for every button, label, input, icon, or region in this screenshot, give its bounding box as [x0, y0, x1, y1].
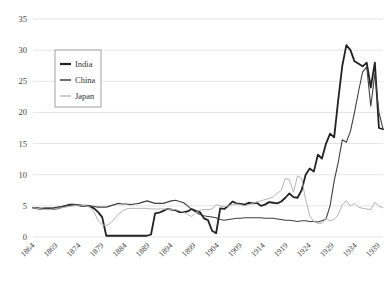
x-tick-label: 1924: [295, 241, 313, 259]
x-tick-label: 1939: [364, 241, 382, 259]
y-tick-label: 15: [19, 139, 28, 149]
y-tick-label: 10: [19, 170, 28, 180]
x-tick-label: 1864: [19, 241, 37, 259]
y-tick-label: 30: [19, 45, 28, 55]
x-tick-label: 1884: [111, 241, 129, 259]
chart-legend: IndiaChinaJapan: [55, 50, 101, 107]
x-tick-label: 1889: [134, 241, 152, 259]
x-tick-label: 1914: [249, 241, 267, 259]
line-chart: 05101520253035 1864186918741879188418891…: [0, 0, 390, 282]
x-tick-label: 1934: [341, 241, 359, 259]
x-tick-label: 1909: [226, 241, 244, 259]
y-tick-label: 20: [19, 107, 28, 117]
x-tick-label: 1919: [272, 241, 290, 259]
x-tick-label: 1904: [203, 241, 221, 259]
x-tick-label: 1899: [180, 241, 198, 259]
y-tick-label: 5: [23, 201, 27, 211]
legend-label-japan[interactable]: Japan: [75, 91, 95, 101]
x-axis-tick-labels: 1864186918741879188418891894189919041909…: [19, 241, 382, 259]
y-tick-label: 25: [19, 76, 28, 86]
x-tick-label: 1869: [42, 241, 60, 259]
chart-canvas: 05101520253035 1864186918741879188418891…: [0, 0, 390, 282]
y-tick-label: 35: [19, 14, 28, 24]
x-tick-label: 1879: [88, 241, 106, 259]
y-tick-label: 0: [23, 232, 27, 242]
y-axis-tick-labels: 05101520253035: [19, 14, 28, 242]
x-tick-label: 1894: [157, 241, 175, 259]
x-tick-label: 1929: [318, 241, 336, 259]
x-tick-label: 1874: [65, 241, 83, 259]
legend-label-india[interactable]: India: [75, 59, 93, 69]
legend-label-china[interactable]: China: [75, 75, 96, 85]
